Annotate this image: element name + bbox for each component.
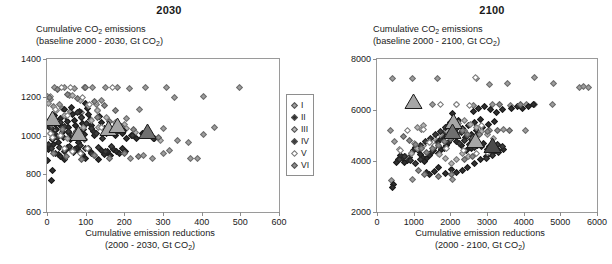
mean-triangle-mean-I [404,93,423,110]
panel-2030: 2030 Cumulative CO2 emissions (baseline … [0,0,290,264]
y-tick [373,110,377,111]
y-title-l1-sub: 2 [98,28,102,35]
plot-area-2100: 0100020003000400050006000200040006000800… [376,58,598,213]
data-point-I [200,93,207,100]
y-tick [373,161,377,162]
legend-row-IV[interactable]: IV [291,135,310,147]
data-point-I [409,75,416,82]
y2-title-l2-sub: 2 [493,40,497,47]
data-point-I [89,84,96,91]
data-point-III [442,155,449,162]
legend-label-II: II [301,113,306,122]
data-point-II [464,164,471,171]
x-tick-label: 200 [117,217,132,227]
plot-area-2030: 0100200300400500600600800100012001400 [46,58,280,213]
mean-triangle-mean-IV [108,117,127,134]
x-tick-label: 4000 [514,217,534,227]
x-tick-label: 1000 [404,217,424,227]
x-tick [124,212,125,216]
x-tick-label: 0 [44,217,49,227]
y-tick-label: 6000 [351,105,371,115]
panel-2030-y-axis-title: Cumulative CO2 emissions (baseline 2000 … [36,24,163,47]
y2-title-l1-a: Cumulative CO [373,24,435,34]
data-point-I [389,75,396,82]
x2-title-l2-a: (2000 - 2100, Gt CO [435,240,518,250]
data-point-I [434,75,441,82]
y-tick-label: 4000 [351,156,371,166]
legend-label-IV: IV [301,137,309,146]
data-point-I [149,155,156,162]
x2-title-l2-b: ) [522,240,525,250]
x2-title-l1: Cumulative emission reductions [355,228,605,240]
x-tick-label: 5000 [550,217,570,227]
data-point-I [236,84,243,91]
mean-triangle-mean-I [47,110,62,127]
y2-title-l1-sub: 2 [435,28,439,35]
y-tick [43,212,47,213]
y-title-l2-b: ) [160,36,163,46]
x-tick [524,212,525,216]
data-point-I [486,81,493,88]
legend-label-V: V [301,149,307,158]
x-tick-label: 3000 [477,217,497,227]
data-point-V [404,127,411,134]
data-point-I [210,124,217,131]
panel-2100-y-axis-title: Cumulative CO2 emissions (baseline 2000 … [373,24,500,47]
data-point-I [171,94,178,101]
y2-title-l2-a: (baseline 2000 - 2100, Gt CO [373,36,493,46]
mean-triangle-mean-II [69,125,88,142]
data-point-VI [400,132,407,139]
x-tick [377,212,378,216]
x-tick-label: 100 [78,217,93,227]
x-tick [414,212,415,216]
legend-marker-VI-icon [291,161,298,168]
mean-triangle-mean-V [138,123,157,140]
x-tick [163,212,164,216]
x2-title-l2-sub: 2 [518,244,522,251]
legend-row-III[interactable]: III [291,123,310,135]
data-point-IV [78,114,85,121]
data-point-II [471,159,478,166]
x-tick [86,212,87,216]
panel-2030-x-axis-title: Cumulative emission reductions (2000 - 2… [20,228,280,251]
data-point-I [428,101,435,108]
legend-marker-V-icon [291,149,298,156]
data-point-I [166,147,173,154]
legend-marker-IV-icon [291,137,298,144]
markers-2100 [377,59,597,212]
data-point-I [549,101,556,108]
legend-row-II[interactable]: II [291,111,310,123]
x-tick [240,212,241,216]
data-point-II [49,167,56,174]
x-tick-label: 0 [374,217,379,227]
data-point-I [136,106,143,113]
x-tick-label: 500 [233,217,248,227]
legend-row-VI[interactable]: VI [291,159,310,171]
y-tick [43,174,47,175]
x-tick [560,212,561,216]
markers-2030 [47,59,279,212]
y-tick-label: 8000 [351,54,371,64]
data-point-I [504,80,511,87]
x-tick [450,212,451,216]
mean-triangle-mean-III [443,123,462,140]
x-tick-label: 300 [155,217,170,227]
x-tick-label: 400 [194,217,209,227]
y-tick [43,97,47,98]
y-tick-label: 1000 [21,131,41,141]
data-point-I [391,138,398,145]
y-tick-label: 2000 [351,207,371,217]
y-tick-label: 1200 [21,92,41,102]
y-tick-label: 600 [26,207,41,217]
legend-row-V[interactable]: V [291,147,310,159]
x-tick [279,212,280,216]
y-tick [373,59,377,60]
x-tick-label: 600 [271,217,286,227]
data-point-I [550,80,557,87]
y-title-l2-a: (baseline 2000 - 2030, Gt CO [36,36,156,46]
data-point-VI [101,102,108,109]
x-title-l2-a: (2000 - 2030, Gt CO [105,240,188,250]
x-tick-label: 6000 [587,217,607,227]
legend-row-I[interactable]: I [291,99,310,111]
